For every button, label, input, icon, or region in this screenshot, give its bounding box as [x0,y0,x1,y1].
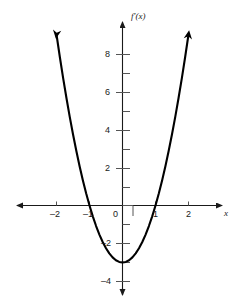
x-tick-label-pos2: 2 [186,210,191,219]
y-tick-label-6: 6 [105,88,110,97]
y-tick-label-8: 8 [105,50,110,59]
x-tick-label-pos1: 1 [153,210,158,219]
x-tick-label-zero: 0 [113,210,118,219]
y-axis-label: f'(x) [131,12,145,21]
y-tick-label-4: 4 [105,126,110,135]
x-axis-label: x [224,209,228,218]
chart-container: f'(x) x –2 –1 0 1 2 8 6 4 2 –2 –4 [0,0,242,307]
y-tick-label-neg4: –4 [101,277,111,286]
y-tick-label-neg2: –2 [101,239,111,248]
plot-area [0,0,242,307]
x-tick-label-neg2: –2 [50,210,60,219]
x-tick-label-neg1: –1 [83,210,93,219]
y-tick-label-2: 2 [105,164,110,173]
